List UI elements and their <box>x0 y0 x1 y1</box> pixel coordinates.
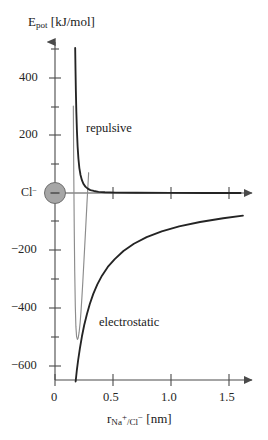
x-tick-label-1-5: 1.5 <box>219 391 235 404</box>
annotation-repulsive: repulsive <box>86 122 132 135</box>
y-tick-label-200: 200 <box>19 128 38 141</box>
y-axis-title-sub: pot <box>36 20 48 30</box>
annotation-electrostatic: electrostatic <box>99 316 159 329</box>
x-axis-title-sub-cl: /Cl <box>127 417 138 427</box>
x-axis-title-unit: [nm] <box>146 411 171 426</box>
potential-energy-chart: Epot [kJ/mol] 400 200 −200 −400 −600 0 0… <box>0 0 268 440</box>
y-tick-label-minus400: −400 <box>11 301 37 314</box>
chart-canvas <box>0 0 268 440</box>
y-tick-label-minus200: −200 <box>11 243 37 256</box>
chloride-ion-marker <box>45 183 66 204</box>
ion-label-charge: − <box>32 186 37 195</box>
y-axis-title: Epot [kJ/mol] <box>28 15 95 30</box>
x-axis-title-sub-na: Na <box>111 417 122 427</box>
ion-label-chloride: Cl− <box>21 186 37 198</box>
y-tick-label-minus600: −600 <box>11 359 37 372</box>
y-axis-title-base: E <box>28 14 36 29</box>
x-axis-title-sup-minus: − <box>138 412 143 422</box>
x-axis-title: rNa+/Cl− [nm] <box>107 412 172 427</box>
x-tick-label-0: 0 <box>51 391 57 404</box>
x-tick-label-0-5: 0.5 <box>103 391 119 404</box>
curve-electrostatic <box>76 216 243 382</box>
ion-label-text: Cl <box>21 185 32 199</box>
y-tick-label-400: 400 <box>19 71 38 84</box>
curve-total-potential <box>73 106 88 339</box>
y-axis-title-unit: [kJ/mol] <box>51 14 95 29</box>
x-tick-label-1-0: 1.0 <box>161 391 177 404</box>
